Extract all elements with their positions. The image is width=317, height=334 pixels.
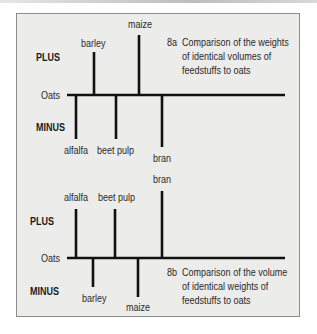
minus-label-b: MINUS [30,285,60,297]
chart-8a: barley maize alfalfa beet pulp bran PLUS… [36,18,289,164]
caption-id-b: 8b [167,266,178,278]
label-barley-a: barley [81,37,106,49]
caption-line-1-a: Comparison of the weights [182,36,289,48]
label-barley-b: barley [82,292,107,304]
caption-id-a: 8a [167,36,178,48]
plus-label-a: PLUS [36,51,60,63]
label-beet-pulp-a: beet pulp [97,144,135,156]
feedstuff-diagram: barley maize alfalfa beet pulp bran PLUS… [0,0,317,334]
label-bran-a: bran [153,152,171,164]
label-beet-pulp-b: beet pulp [98,191,136,203]
caption-line-2-a: of identical volumes of [182,50,271,62]
caption-line-3-a: feedstuffs to oats [182,64,251,76]
label-alfalfa-b: alfalfa [64,191,89,203]
label-maize-a: maize [128,18,152,30]
label-maize-b: maize [126,301,150,313]
caption-line-3-b: feedstuffs to oats [182,294,251,306]
caption-line-2-b: of identical weights of [182,280,268,292]
plus-label-b: PLUS [30,215,54,227]
caption-line-1-b: Comparison of the volume [182,266,287,278]
label-alfalfa-a: alfalfa [64,144,89,156]
oats-label-a: Oats [41,89,60,101]
label-bran-b: bran [153,173,171,185]
minus-label-a: MINUS [36,121,66,133]
oats-label-b: Oats [41,252,60,264]
chart-8b: alfalfa beet pulp bran barley maize PLUS… [30,173,287,313]
